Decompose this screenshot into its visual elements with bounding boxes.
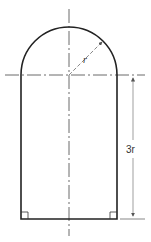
right-angle-marker-left bbox=[21, 212, 28, 219]
height-label: 3r bbox=[126, 144, 136, 155]
right-angle-marker-right bbox=[110, 212, 117, 219]
radius-label: r bbox=[83, 54, 87, 65]
diagram-canvas: r 3r bbox=[0, 0, 151, 242]
